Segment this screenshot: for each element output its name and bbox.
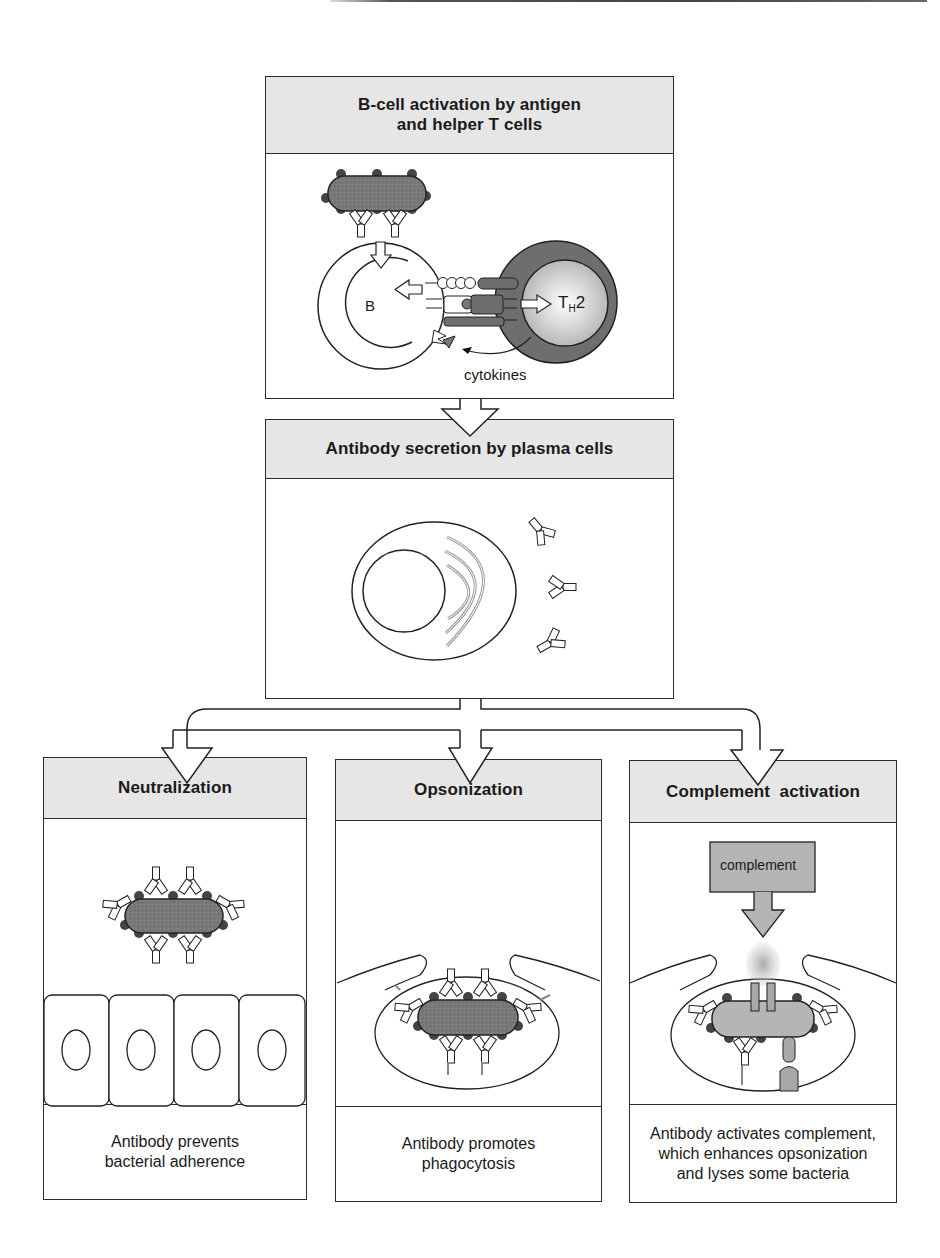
panel-title-secretion: Antibody secretion by plasma cells (266, 420, 673, 479)
activation-title-text: B-cell activation by antigen and helper … (358, 95, 581, 135)
caption-opsonization: Antibody promotes phagocytosis (336, 1106, 601, 1201)
caption-complement: Antibody activates complement, which enh… (630, 1104, 896, 1202)
page-rule (330, 0, 927, 2)
b-cell-label: B (365, 297, 375, 314)
panel-b-cell-activation: B-cell activation by antigen and helper … (265, 76, 674, 399)
secretion-title-text: Antibody secretion by plasma cells (326, 439, 614, 459)
complement-box-label: complement (720, 857, 796, 873)
caption-neutralization: Antibody prevents bacterial adherence (44, 1104, 306, 1199)
opsonization-title-text: Opsonization (414, 780, 523, 800)
panel-antibody-secretion: Antibody secretion by plasma cells (265, 419, 674, 699)
th2-label-sub: H (568, 303, 575, 314)
th2-label: TH2 (558, 293, 585, 314)
panel-opsonization: Opsonization Antibody promotes phagocyto… (335, 759, 602, 1202)
th2-label-main: T (558, 293, 568, 312)
th2-label-num: 2 (576, 293, 585, 312)
panel-title-opsonization: Opsonization (336, 760, 601, 821)
panel-title-complement: Complement activation (630, 761, 896, 823)
neutralization-title-text: Neutralization (118, 778, 232, 798)
panel-title-activation: B-cell activation by antigen and helper … (266, 77, 673, 154)
panel-title-neutralization: Neutralization (44, 758, 306, 819)
panel-neutralization: Neutralization Antibody prevents bacteri… (43, 757, 307, 1200)
cytokines-label: cytokines (464, 366, 527, 383)
complement-caption-text: Antibody activates complement, which enh… (650, 1124, 876, 1184)
opsonization-caption-text: Antibody promotes phagocytosis (402, 1134, 535, 1174)
neutralization-caption-text: Antibody prevents bacterial adherence (105, 1132, 246, 1172)
complement-title-text: Complement activation (666, 782, 860, 802)
panel-complement-activation: Complement activation Antibody activates… (629, 760, 897, 1203)
